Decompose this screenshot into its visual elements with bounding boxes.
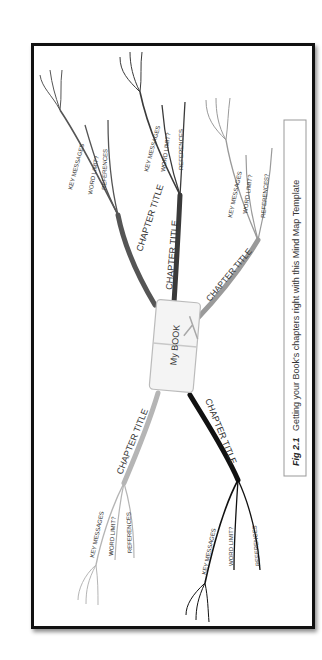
- branch-top-left: CHAPTER TITLE KEY MESSAGES WORD LIMIT? R…: [40, 70, 165, 305]
- svg-text:Fig 2.1 Getting your B: Fig 2.1 Getting your Book's chapters rig…: [291, 180, 301, 466]
- branch-bottom-right-sub-2: REFERENCES: [251, 525, 261, 566]
- branch-top-right-sub-1: WORD LIMIT?: [242, 174, 254, 214]
- branch-top-middle: CHAPTER TITLE KEY MESSAGES WORD LIMIT? R…: [120, 52, 185, 303]
- branch-top-left-sub-0: KEY MESSAGES: [67, 143, 85, 190]
- branch-bottom-right-sub-1: WORD LIMIT?: [228, 526, 234, 566]
- page: CHAPTER TITLE KEY MESSAGES WORD LIMIT? R…: [0, 0, 322, 660]
- branch-top-middle-sub-2: REFERENCES: [178, 129, 184, 170]
- branch-top-right: CHAPTER TITLE KEY MESSAGES WORD LIMIT? R…: [196, 98, 272, 320]
- branch-top-left-sub-2: REFERENCES: [101, 149, 108, 190]
- branch-top-middle-sub-1: WORD LIMIT?: [160, 132, 172, 172]
- branch-bottom-left-sub-0: KEY MESSAGES: [89, 511, 105, 558]
- caption-label: Fig 2.1: [291, 437, 301, 466]
- mind-map-diagram: CHAPTER TITLE KEY MESSAGES WORD LIMIT? R…: [0, 0, 322, 660]
- branch-top-left-label: CHAPTER TITLE: [134, 183, 165, 253]
- branch-bottom-right-label: CHAPTER TITLE: [203, 397, 238, 466]
- caption-text: Getting your Book's chapters right with …: [291, 180, 301, 431]
- branch-top-right-label: CHAPTER TITLE: [204, 246, 254, 303]
- branch-bottom-right: CHAPTER TITLE KEY MESSAGES WORD LIMIT? R…: [186, 395, 261, 622]
- branch-top-right-sub-2: REFERENCES?: [260, 173, 270, 218]
- branch-bottom-left: CHAPTER TITLE KEY MESSAGES WORD LIMIT? R…: [78, 393, 158, 605]
- central-node: My BOOK: [149, 299, 201, 392]
- figure-caption: Fig 2.1 Getting your Book's chapters rig…: [284, 120, 306, 476]
